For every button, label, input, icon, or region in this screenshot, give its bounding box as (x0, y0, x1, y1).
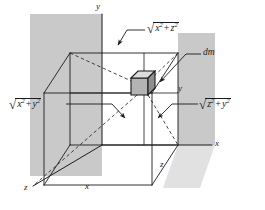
radical-body-top: x2+z2 (153, 22, 179, 33)
dm-label: dm (203, 48, 215, 58)
leader-right-radical-arrow (158, 104, 172, 118)
radical-body-right: z2+y2 (205, 98, 231, 109)
axis-label-y-inner: y (178, 84, 182, 93)
radical-body-left: x2+y2 (15, 98, 41, 109)
radical-left-term2-exp: 2 (37, 97, 40, 104)
figure-canvas: y x z x z y dm √x2+z2 √x2+y2 √z2+y2 (0, 0, 265, 210)
radical-right-operator: + (214, 98, 222, 109)
radical-label-top: √x2+z2 (147, 21, 179, 34)
dm-cube (131, 71, 155, 95)
radical-label-right: √z2+y2 (199, 97, 231, 110)
axis-label-z-bottom-right: z (160, 160, 164, 169)
radical-top-term2-exp: 2 (174, 21, 177, 28)
axis-label-z-bottom-left: z (24, 183, 28, 192)
radical-label-left: √x2+y2 (9, 97, 41, 110)
depth-edge-top-right (152, 53, 178, 93)
dashed-to-bottom-right-corner (148, 95, 178, 145)
axis-label-x-bottom: x (85, 182, 89, 191)
axis-label-x-right: x (215, 139, 219, 148)
dm-cube-front-face (131, 78, 148, 95)
shaded-coordinate-planes (30, 14, 218, 188)
axis-label-y-top: y (96, 2, 100, 11)
radical-right-term2-exp: 2 (226, 97, 229, 104)
leader-top-radical-arrow (118, 30, 127, 45)
